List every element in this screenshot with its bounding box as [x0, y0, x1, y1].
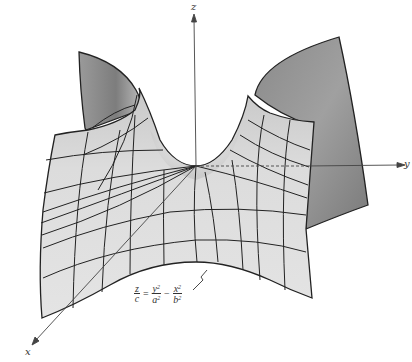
saddle-surface-diagram — [0, 0, 412, 362]
equation-lhs: z c — [134, 284, 140, 303]
z-axis — [194, 18, 196, 166]
z-axis-label: z — [191, 1, 196, 12]
equation-term1: y2 a2 — [152, 283, 161, 304]
minus-sign: − — [163, 288, 171, 299]
surface-equation: z c = y2 a2 − x2 b2 — [134, 283, 182, 304]
z-axis-arrowhead — [192, 14, 197, 22]
equals-sign: = — [142, 288, 150, 299]
equation-leader-line — [193, 270, 207, 290]
y-axis-label: y — [404, 158, 410, 169]
equation-term2: x2 b2 — [173, 283, 182, 304]
x-axis-label: x — [25, 346, 31, 357]
